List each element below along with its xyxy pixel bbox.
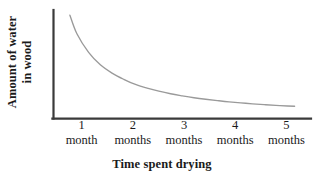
x-tick-5-unit: months bbox=[268, 134, 305, 148]
x-tick-2: 2 months bbox=[107, 119, 158, 147]
x-tick-4-number: 4 bbox=[232, 119, 238, 133]
x-tick-3-unit: months bbox=[166, 134, 203, 148]
x-tick-3: 3 months bbox=[158, 119, 209, 147]
x-tick-2-number: 2 bbox=[130, 119, 136, 133]
x-tick-5-number: 5 bbox=[283, 119, 289, 133]
x-tick-4: 4 months bbox=[210, 119, 261, 147]
chart-figure: Amount of water in wood 1 month 2 months… bbox=[0, 0, 324, 187]
x-axis-tick-labels: 1 month 2 months 3 months 4 months 5 mon… bbox=[56, 119, 312, 147]
x-tick-1: 1 month bbox=[56, 119, 107, 147]
x-tick-1-unit: month bbox=[66, 134, 98, 148]
x-tick-2-unit: months bbox=[114, 134, 151, 148]
x-axis-title: Time spent drying bbox=[0, 157, 324, 172]
x-tick-1-number: 1 bbox=[78, 119, 84, 133]
x-tick-4-unit: months bbox=[217, 134, 254, 148]
x-tick-5: 5 months bbox=[261, 119, 312, 147]
x-tick-3-number: 3 bbox=[181, 119, 187, 133]
data-curve-water-in-wood bbox=[70, 15, 295, 106]
